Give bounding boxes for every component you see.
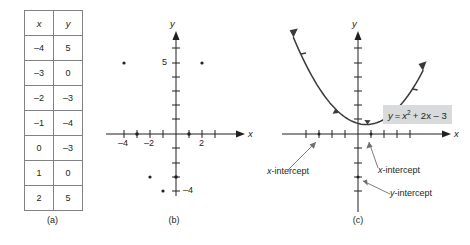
intercept-markers <box>318 133 373 179</box>
equation-label: y=x2+ 2x – 3 <box>383 105 452 124</box>
panel-b-y-tick--4: –4 <box>183 185 193 195</box>
data-points <box>122 61 203 192</box>
cell-y: –4 <box>54 111 83 136</box>
panel-b-y-axis-label: y <box>170 18 175 29</box>
table-row: –1 –4 <box>25 111 83 136</box>
table-header-row: x y <box>25 11 83 36</box>
x-intercept-label-right: x-intercept <box>378 165 420 175</box>
value-table-body: x y –4 5 –3 0 –2 –3 –1 –4 0 –3 <box>25 11 83 211</box>
cell-x: –1 <box>25 111 54 136</box>
y-intercept-text: -intercept <box>395 188 433 198</box>
value-table: x y –4 5 –3 0 –2 –3 –1 –4 0 –3 <box>24 10 83 211</box>
y-axis <box>172 31 180 196</box>
cell-x: 2 <box>25 186 54 211</box>
x-intercept-point-right <box>370 133 373 136</box>
panel-c-y-axis-label: y <box>352 18 357 29</box>
panel-b-axes-svg <box>104 0 256 245</box>
x-axis <box>282 130 451 138</box>
data-point <box>161 189 164 192</box>
panel-b-x-tick--4: –4 <box>118 138 128 148</box>
panel-caption-a: (a) <box>24 215 81 225</box>
data-point <box>187 132 191 136</box>
cell-y: 5 <box>54 36 83 61</box>
table-row: 2 5 <box>25 186 83 211</box>
table-row: –4 5 <box>25 36 83 61</box>
cell-y: 0 <box>54 61 83 86</box>
cell-y: 0 <box>54 161 83 186</box>
data-point <box>200 61 203 64</box>
y-axis <box>354 31 362 212</box>
cell-x: 1 <box>25 161 54 186</box>
x-intercept-left-text: -intercept <box>272 166 310 176</box>
x-intercept-right-text: -intercept <box>383 165 421 175</box>
panel-b-x-axis-label: x <box>248 128 253 139</box>
panel-c-x-axis-label: x <box>454 128 459 139</box>
equation-exponent: 2 <box>407 109 411 116</box>
panel-caption-c: (c) <box>330 215 386 225</box>
table-row: 1 0 <box>25 161 83 186</box>
cell-y: 5 <box>54 186 83 211</box>
table-row: 0 –3 <box>25 136 83 161</box>
panel-caption-b: (b) <box>146 215 202 225</box>
y-intercept-point <box>357 176 360 179</box>
data-point <box>174 175 178 179</box>
x-intercept-label-left: x-intercept <box>267 166 309 176</box>
data-point <box>122 61 125 64</box>
equation-lhs: y <box>388 110 393 121</box>
panel-b-x-tick--2: –2 <box>144 138 154 148</box>
equation-rest: + 2x – 3 <box>413 110 447 121</box>
cell-x: –2 <box>25 86 54 111</box>
panel-b-y-tick-5: 5 <box>162 57 167 67</box>
cell-x: 0 <box>25 136 54 161</box>
x-intercept-point-left <box>318 133 321 136</box>
y-intercept-label: y-intercept <box>390 188 432 198</box>
equation-equals: = <box>395 110 401 121</box>
column-header-x: x <box>25 11 54 36</box>
data-point <box>135 132 139 136</box>
column-header-y: y <box>54 11 83 36</box>
table-row: –2 –3 <box>25 86 83 111</box>
cell-x: –4 <box>25 36 54 61</box>
cell-x: –3 <box>25 61 54 86</box>
panel-b-scatter-plot: x y –4 –2 2 5 –4 <box>104 0 256 245</box>
panel-a-table-of-values: x y –4 5 –3 0 –2 –3 –1 –4 0 –3 <box>24 10 81 202</box>
cell-y: –3 <box>54 136 83 161</box>
table-row: –3 0 <box>25 61 83 86</box>
cell-y: –3 <box>54 86 83 111</box>
panel-b-x-tick-2: 2 <box>199 138 204 148</box>
parabola-curve <box>293 28 425 177</box>
data-point <box>148 175 151 178</box>
